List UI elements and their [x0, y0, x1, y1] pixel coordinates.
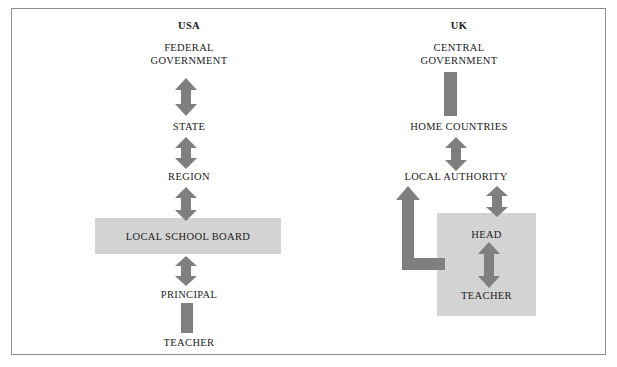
- node-usa-principal: PRINCIPAL: [143, 288, 235, 301]
- connector-local-authority-to-head: [485, 186, 509, 217]
- node-uk-teacher: TEACHER: [437, 289, 536, 302]
- connector-federal-to-state: [174, 78, 198, 116]
- node-usa-region: REGION: [143, 170, 235, 183]
- connector-principal-to-teacher: [181, 303, 193, 333]
- connector-head-to-teacher: [477, 242, 501, 288]
- node-usa-local-school-board: LOCAL SCHOOL BOARD: [95, 230, 281, 243]
- column-title-usa: USA: [140, 20, 238, 31]
- connector-central-to-home-countries: [444, 72, 457, 116]
- node-usa-teacher: TEACHER: [143, 336, 235, 349]
- node-uk-central-government: CENTRAL GOVERNMENT: [399, 41, 519, 67]
- connector-region-to-local-school-board: [174, 187, 198, 221]
- connector-state-to-region: [174, 137, 198, 169]
- node-usa-federal-government: FEDERAL GOVERNMENT: [129, 41, 249, 67]
- node-uk-local-authority: LOCAL AUTHORITY: [391, 170, 521, 183]
- connector-home-countries-to-local-authority: [444, 137, 468, 171]
- diagram-root: USA FEDERAL GOVERNMENT STATE REGION LOCA…: [0, 0, 617, 367]
- column-title-uk: UK: [410, 20, 508, 31]
- connector-school-to-local-authority-elbow: [395, 186, 445, 270]
- connector-local-school-board-to-principal: [174, 256, 198, 286]
- node-uk-head: HEAD: [437, 228, 536, 241]
- node-uk-home-countries: HOME COUNTRIES: [394, 120, 524, 133]
- node-usa-state: STATE: [143, 120, 235, 133]
